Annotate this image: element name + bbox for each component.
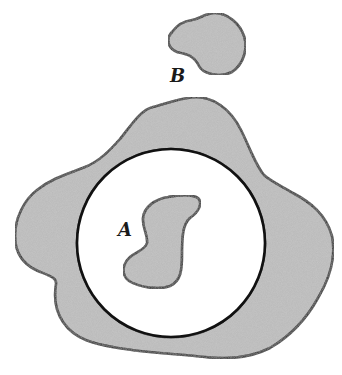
- label-b: B: [169, 65, 185, 86]
- label-a: A: [116, 219, 132, 240]
- region-diagram: B A: [0, 0, 342, 375]
